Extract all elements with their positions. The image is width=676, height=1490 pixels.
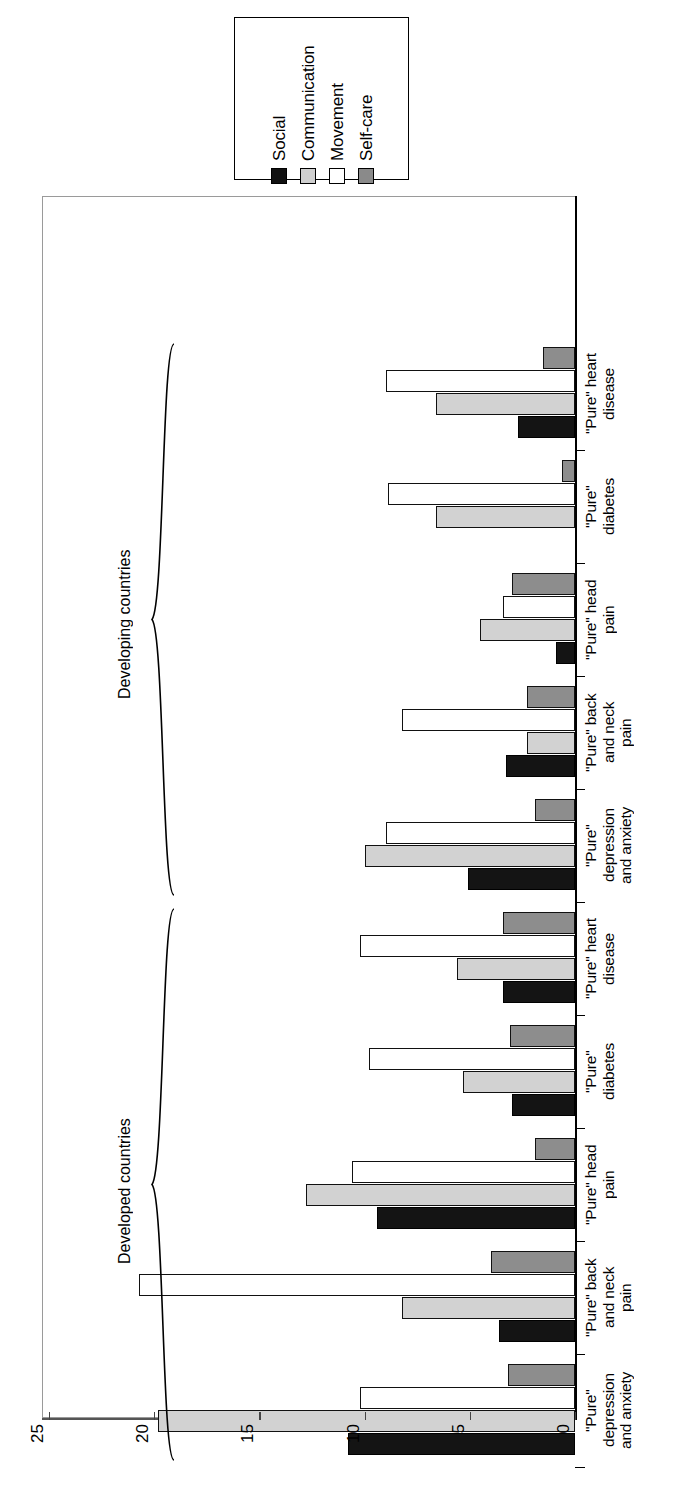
legend-label: Self-care — [358, 95, 375, 161]
bar-selfcare — [543, 347, 575, 369]
bar-social — [468, 868, 575, 890]
category-label: "Pure" head pain — [582, 567, 674, 672]
legend-label: Movement — [329, 83, 346, 161]
legend-swatch-social-icon — [271, 168, 287, 184]
legend-label: Social — [271, 116, 288, 161]
legend-item-social[interactable]: Social — [268, 30, 290, 184]
bar-social — [499, 1320, 575, 1342]
value-tick-label: 10 — [345, 1424, 385, 1443]
super-group-label: Developing countries — [116, 539, 133, 699]
category-tick — [575, 1241, 585, 1242]
category-label: "Pure" head pain — [582, 1132, 674, 1237]
bar-social — [556, 642, 575, 664]
super-group-label: Developed countries — [116, 1104, 133, 1264]
group-brace — [150, 908, 176, 1461]
category-label: "Pure" back and neck pain — [582, 680, 674, 785]
bar-communication — [436, 506, 575, 528]
bar-movement — [360, 1387, 575, 1409]
value-tick-mark — [470, 1412, 471, 1420]
bar-social — [512, 1094, 575, 1116]
chart-page: SocialCommunicationMovementSelf-care "Pu… — [0, 0, 676, 1490]
category-label: "Pure" back and neck pain — [582, 1245, 674, 1350]
value-tick-label: 25 — [29, 1424, 69, 1443]
category-label: "Pure" depression and anxiety — [582, 793, 674, 898]
value-tick-label: 15 — [239, 1424, 279, 1443]
bar-social — [377, 1207, 575, 1229]
bar-communication — [306, 1184, 575, 1206]
bar-movement — [369, 1048, 575, 1070]
bar-selfcare — [535, 1138, 575, 1160]
bar-selfcare — [562, 460, 575, 482]
legend-label: Communication — [300, 45, 317, 161]
bar-movement — [503, 596, 575, 618]
bar-movement — [386, 822, 575, 844]
bar-communication — [402, 1297, 575, 1319]
bar-selfcare — [535, 799, 575, 821]
group-brace — [150, 343, 176, 896]
bar-communication — [457, 958, 575, 980]
legend-swatch-self-care-icon — [358, 168, 374, 184]
bar-selfcare — [510, 1025, 575, 1047]
bar-communication — [480, 619, 575, 641]
value-tick-mark — [575, 1412, 576, 1420]
category-tick — [575, 1467, 585, 1468]
bar-communication — [365, 845, 576, 867]
bar-selfcare — [512, 573, 575, 595]
bar-communication — [436, 393, 575, 415]
category-label: "Pure" heart disease — [582, 341, 674, 446]
bar-movement — [352, 1161, 575, 1183]
bar-social — [518, 416, 575, 438]
value-tick-mark — [49, 1412, 50, 1420]
bar-movement — [386, 370, 575, 392]
bar-social — [503, 981, 575, 1003]
bar-selfcare — [503, 912, 575, 934]
legend-swatch-movement-icon — [329, 168, 345, 184]
category-tick — [575, 450, 585, 451]
bar-movement — [388, 483, 575, 505]
legend-item-self-care[interactable]: Self-care — [355, 30, 377, 184]
bar-selfcare — [508, 1364, 575, 1386]
category-label: "Pure" diabetes — [582, 1019, 674, 1124]
legend-swatch-communication-icon — [300, 168, 316, 184]
category-tick — [575, 676, 585, 677]
category-tick — [575, 1128, 585, 1129]
bar-social — [506, 755, 575, 777]
bars-layer — [0, 196, 676, 1418]
category-label: "Pure" heart disease — [582, 906, 674, 1011]
value-tick-mark — [365, 1412, 366, 1420]
category-tick — [575, 1354, 585, 1355]
category-tick — [575, 1015, 585, 1016]
bar-movement — [139, 1274, 575, 1296]
value-tick-label: 0 — [555, 1424, 595, 1433]
bar-movement — [402, 709, 575, 731]
category-tick — [575, 563, 585, 564]
bar-communication — [463, 1071, 575, 1093]
legend-item-movement[interactable]: Movement — [326, 30, 348, 184]
category-tick — [575, 789, 585, 790]
value-tick-label: 5 — [450, 1424, 490, 1433]
category-label: "Pure" diabetes — [582, 454, 674, 559]
chart-legend: SocialCommunicationMovementSelf-care — [234, 17, 409, 180]
category-tick — [575, 902, 585, 903]
legend-item-communication[interactable]: Communication — [297, 30, 319, 184]
bar-selfcare — [527, 686, 575, 708]
value-tick-mark — [259, 1412, 260, 1420]
category-label: "Pure" depression and anxiety — [582, 1358, 674, 1463]
bar-movement — [360, 935, 575, 957]
bar-selfcare — [491, 1251, 575, 1273]
bar-communication — [527, 732, 575, 754]
